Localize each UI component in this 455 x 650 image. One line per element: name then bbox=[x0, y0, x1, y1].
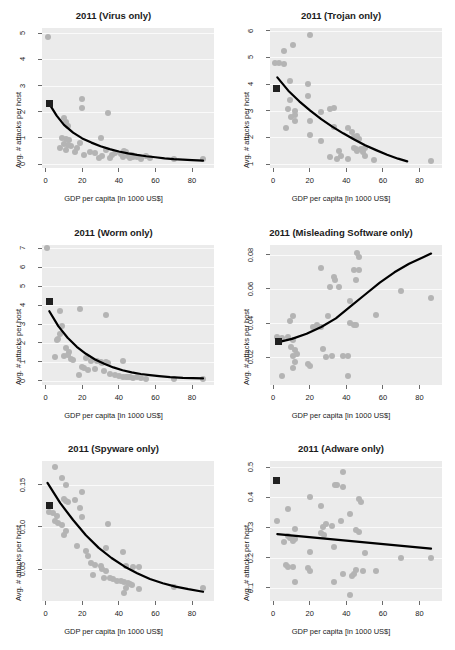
gridline-horizontal bbox=[270, 164, 442, 165]
reference-square-marker bbox=[46, 502, 53, 509]
x-tick-label: 60 bbox=[140, 609, 170, 618]
gridline-horizontal bbox=[42, 362, 214, 363]
data-point bbox=[200, 156, 206, 162]
data-point bbox=[92, 366, 98, 372]
y-tick-mark bbox=[38, 267, 42, 268]
data-point bbox=[103, 545, 109, 551]
data-point bbox=[318, 324, 324, 330]
data-point bbox=[353, 277, 359, 283]
y-tick-label: 0.15 bbox=[18, 477, 27, 492]
data-point bbox=[285, 506, 291, 512]
reference-square-marker bbox=[46, 100, 53, 107]
gridline-horizontal bbox=[42, 248, 214, 249]
data-point bbox=[358, 499, 364, 505]
gridline-horizontal bbox=[42, 164, 214, 165]
x-tick-mark bbox=[82, 168, 83, 172]
x-tick-mark bbox=[346, 601, 347, 605]
panel-title: 2011 (Adware only) bbox=[228, 443, 455, 454]
y-tick-mark bbox=[266, 57, 270, 58]
gridline-horizontal bbox=[42, 343, 214, 344]
plot-area bbox=[42, 245, 214, 385]
data-point bbox=[320, 346, 326, 352]
y-tick-mark bbox=[266, 357, 270, 358]
data-point bbox=[147, 155, 153, 161]
panel-title: 2011 (Trojan only) bbox=[228, 10, 455, 21]
y-tick-mark bbox=[38, 33, 42, 34]
y-axis-label: Avg. # attacks per host bbox=[14, 92, 23, 168]
data-point bbox=[287, 97, 293, 103]
x-tick-label: 20 bbox=[295, 609, 325, 618]
y-tick-label: 4 bbox=[18, 303, 27, 307]
data-point bbox=[59, 475, 65, 481]
y-tick-label: 5 bbox=[245, 55, 254, 59]
panel-1: 2011 (Trojan only)123456020406080Avg. # … bbox=[228, 0, 455, 216]
y-tick-mark bbox=[266, 527, 270, 528]
data-point bbox=[340, 571, 346, 577]
y-tick-mark bbox=[38, 286, 42, 287]
x-tick-mark bbox=[155, 601, 156, 605]
data-point bbox=[340, 469, 346, 475]
y-tick-mark bbox=[38, 380, 42, 381]
x-tick-label: 60 bbox=[368, 393, 398, 402]
y-tick-mark bbox=[38, 342, 42, 343]
data-point bbox=[109, 152, 115, 158]
y-tick-label: 5 bbox=[18, 284, 27, 288]
plot-area bbox=[270, 28, 442, 168]
data-point bbox=[331, 579, 337, 585]
x-tick-mark bbox=[82, 601, 83, 605]
data-point bbox=[98, 135, 104, 141]
data-point bbox=[362, 153, 368, 159]
data-point bbox=[353, 322, 359, 328]
y-tick-label: 0.08 bbox=[245, 248, 254, 263]
x-tick-label: 40 bbox=[104, 393, 134, 402]
x-axis-label: GDP per capita [in 1000 US$] bbox=[228, 411, 455, 420]
plot-area bbox=[270, 461, 442, 601]
x-tick-label: 0 bbox=[258, 393, 288, 402]
data-point bbox=[79, 514, 85, 520]
y-tick-label: 4 bbox=[245, 82, 254, 86]
data-point bbox=[79, 489, 85, 495]
x-tick-mark bbox=[192, 168, 193, 172]
x-tick-label: 40 bbox=[104, 609, 134, 618]
y-tick-mark bbox=[266, 288, 270, 289]
data-point bbox=[63, 147, 69, 153]
data-point bbox=[373, 568, 379, 574]
panel-title: 2011 (Worm only) bbox=[0, 227, 227, 238]
data-point bbox=[331, 544, 337, 550]
data-point bbox=[85, 367, 91, 373]
data-point bbox=[143, 376, 149, 382]
data-point bbox=[321, 532, 327, 538]
x-tick-label: 0 bbox=[31, 393, 61, 402]
data-point bbox=[307, 568, 313, 574]
x-tick-mark bbox=[155, 385, 156, 389]
x-tick-label: 0 bbox=[258, 609, 288, 618]
data-point bbox=[334, 156, 340, 162]
data-point bbox=[290, 564, 296, 570]
x-tick-mark bbox=[192, 601, 193, 605]
y-tick-mark bbox=[38, 248, 42, 249]
y-tick-label: 3 bbox=[18, 83, 27, 87]
data-point bbox=[331, 105, 337, 111]
y-tick-label: 0.4 bbox=[245, 492, 254, 502]
data-point bbox=[287, 78, 293, 84]
data-point bbox=[120, 358, 126, 364]
data-point bbox=[74, 543, 80, 549]
x-tick-mark bbox=[155, 168, 156, 172]
x-tick-label: 40 bbox=[331, 393, 361, 402]
y-tick-mark bbox=[38, 484, 42, 485]
panel-4: 2011 (Spyware only)0.050.100.15020406080… bbox=[0, 433, 227, 649]
y-tick-label: 0.06 bbox=[245, 282, 254, 297]
x-tick-label: 20 bbox=[67, 609, 97, 618]
data-point bbox=[356, 136, 362, 142]
y-tick-mark bbox=[266, 110, 270, 111]
data-point bbox=[61, 532, 67, 538]
x-axis-label: GDP per capita [in 1000 US$] bbox=[0, 411, 227, 420]
gridline-horizontal bbox=[42, 33, 214, 34]
gridline-horizontal bbox=[270, 467, 442, 468]
data-point bbox=[290, 337, 296, 343]
fit-curve bbox=[277, 534, 431, 548]
y-tick-mark bbox=[38, 137, 42, 138]
x-tick-label: 0 bbox=[31, 176, 61, 185]
y-tick-mark bbox=[266, 84, 270, 85]
data-point bbox=[52, 354, 58, 360]
